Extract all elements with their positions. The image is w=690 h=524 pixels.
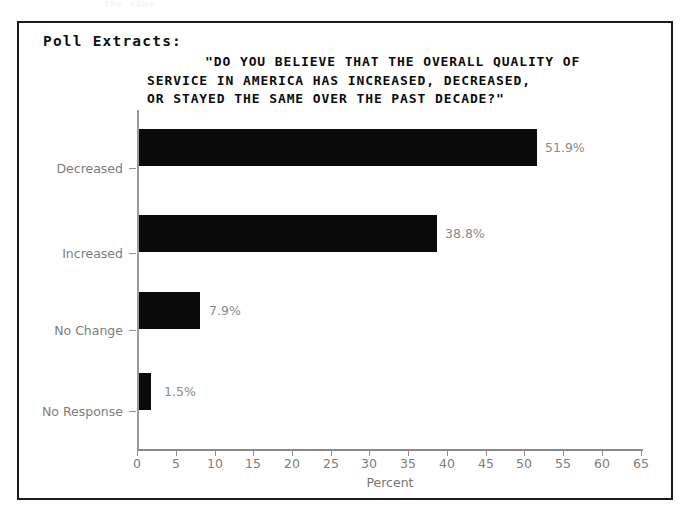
bar-no-response bbox=[139, 373, 151, 410]
x-tick-label-55: 55 bbox=[548, 456, 578, 471]
x-tick-label-65: 65 bbox=[626, 456, 656, 471]
x-tick-label-35: 35 bbox=[393, 456, 423, 471]
bar-value-no-response: 1.5% bbox=[164, 384, 196, 399]
category-label-no-response: No Response bbox=[21, 404, 123, 419]
x-tick-label-60: 60 bbox=[587, 456, 617, 471]
x-tick-label-15: 15 bbox=[238, 456, 268, 471]
category-tick-decreased bbox=[129, 168, 136, 169]
x-tick-label-10: 10 bbox=[200, 456, 230, 471]
x-tick-label-5: 5 bbox=[161, 456, 191, 471]
x-tick-label-0: 0 bbox=[122, 456, 152, 471]
category-tick-increased bbox=[129, 253, 136, 254]
category-tick-no-change bbox=[129, 330, 136, 331]
x-tick-label-50: 50 bbox=[509, 456, 539, 471]
x-tick-label-25: 25 bbox=[316, 456, 346, 471]
x-tick-label-40: 40 bbox=[432, 456, 462, 471]
figure-frame: Poll Extracts: "DO YOU BELIEVE THAT THE … bbox=[17, 21, 673, 500]
scan-artifact-text: the same bbox=[104, 0, 155, 9]
bar-value-decreased: 51.9% bbox=[545, 140, 585, 155]
bar-no-change bbox=[139, 292, 200, 329]
x-tick-label-20: 20 bbox=[277, 456, 307, 471]
category-label-increased: Increased bbox=[27, 246, 123, 261]
bar-value-increased: 38.8% bbox=[445, 226, 485, 241]
category-label-no-change: No Change bbox=[27, 323, 123, 338]
x-axis-line bbox=[137, 449, 643, 451]
bar-increased bbox=[139, 215, 437, 252]
bar-value-no-change: 7.9% bbox=[209, 303, 241, 318]
x-tick-label-45: 45 bbox=[471, 456, 501, 471]
bar-decreased bbox=[139, 129, 537, 166]
category-tick-no-response bbox=[129, 411, 136, 412]
plot-area: Decreased 51.9% Increased 38.8% No Chang… bbox=[19, 23, 675, 502]
x-tick-label-30: 30 bbox=[354, 456, 384, 471]
category-label-decreased: Decreased bbox=[27, 161, 123, 176]
x-axis-title: Percent bbox=[137, 475, 643, 490]
